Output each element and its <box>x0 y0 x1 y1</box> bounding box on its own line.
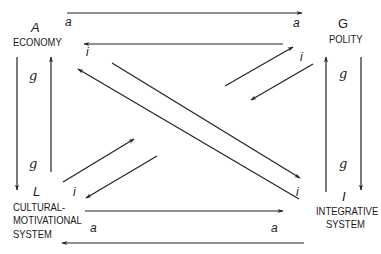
node-cultural-label-line1: CULTURAL- <box>13 202 65 214</box>
arrow-economy-to-integrative <box>112 63 300 178</box>
edge-label-integrative-i: i <box>296 186 299 198</box>
node-integrative-label-line2: SYSTEM <box>326 219 365 231</box>
edge-label-top-left-a: a <box>65 16 72 28</box>
node-cultural-label-line3: SYSTEM <box>13 229 52 241</box>
edge-label-right-bottom-g: g <box>339 157 347 170</box>
edge-label-bottom-right-a: a <box>271 222 278 234</box>
node-g-letter: G <box>338 17 348 30</box>
node-polity-label: POLITY <box>329 34 363 46</box>
node-a-letter: A <box>31 21 40 34</box>
edge-label-left-bottom-g: g <box>29 157 37 170</box>
arrow-integrative-to-economy <box>78 69 299 199</box>
edge-label-right-top-g: g <box>339 67 347 80</box>
edge-label-left-top-g: g <box>29 69 37 82</box>
edge-label-bottom-left-a: a <box>90 222 97 234</box>
node-integrative-label-line1: INTEGRATIVE <box>316 206 378 218</box>
node-economy-label: ECONOMY <box>13 37 62 49</box>
edge-label-economy-i: i <box>86 46 89 58</box>
node-cultural-label-line2: MOTIVATIONAL <box>13 215 82 227</box>
edge-label-polity-i: i <box>300 51 303 63</box>
arrow-polity-to-cultural-upper <box>251 64 313 100</box>
edge-label-top-right-a: a <box>293 17 300 29</box>
node-l-letter: L <box>33 185 40 198</box>
node-i-letter: I <box>342 190 346 203</box>
edge-label-cultural-i: i <box>73 186 76 198</box>
arrow-cultural-to-polity-upper <box>225 47 293 86</box>
